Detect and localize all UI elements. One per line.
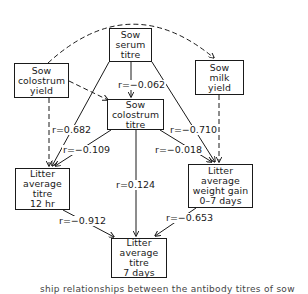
node-sow-colostrum-titre: Sow colostrum titre [107,99,164,130]
label-12hr-to-7days: r=−0.912 [58,216,107,226]
node-line: Sow [126,100,146,110]
node-line: titre [121,50,141,60]
node-litter-weight-gain: Litter average weight gain 0–7 days [188,164,253,208]
node-line: yield [208,83,231,93]
node-sow-milk-yield: Sow milk yield [195,60,244,95]
node-sow-colostrum-yield: Sow colostrum yield [14,63,69,98]
node-line: 12 hr [30,199,55,209]
node-sow-serum-titre: Sow serum titre [109,28,152,62]
label-colostrum-titre-to-weight-gain: r=−0.018 [154,145,203,155]
label-colostrum-yield-to-12hr: r=0.682 [51,125,92,135]
label-serum-to-weight-gain: r=−0.710 [169,125,218,135]
node-line: 7 days [123,268,154,278]
label-colostrum-titre-to-7days: r=0.124 [115,180,156,190]
node-litter-titre-12hr: Litter average titre 12 hr [15,168,70,210]
figure-caption: ship relationships between the antibody … [40,284,308,294]
node-line: 0–7 days [199,196,241,206]
node-litter-titre-7days: Litter average titre 7 days [111,238,167,278]
node-line: Sow [210,63,230,73]
edge-colostrum-yield-to-colostrum-titre [69,81,108,100]
node-line: milk [209,73,229,83]
label-colostrum-titre-to-12hr: r=−0.109 [62,145,111,155]
node-line: titre [126,120,146,130]
node-line: yield [30,86,53,96]
label-weight-gain-to-7days: r=−0.653 [165,213,214,223]
node-line: colostrum [18,76,65,86]
node-line: Sow [32,66,52,76]
label-serum-to-colostrum-titre: r=−0.062 [117,80,166,90]
node-line: colostrum [112,110,159,120]
